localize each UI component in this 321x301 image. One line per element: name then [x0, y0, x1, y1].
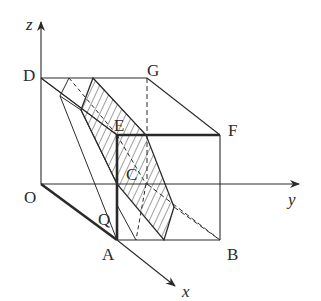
point-A-label: A: [102, 245, 115, 264]
point-O-label: O: [24, 188, 36, 207]
point-Q-label: Q: [98, 210, 110, 229]
x-axis: [117, 240, 175, 286]
geometry-figure: z y x D G F E C O Q A B: [0, 0, 321, 301]
point-F-label: F: [228, 121, 237, 140]
y-axis-label: y: [286, 190, 296, 209]
axes: [41, 22, 299, 286]
point-E-label: E: [114, 116, 124, 135]
point-C-label: C: [126, 165, 137, 184]
point-B-label: B: [227, 245, 238, 264]
shaded-cross-section: [81, 78, 174, 240]
point-G-label: G: [147, 61, 159, 80]
point-D-label: D: [23, 66, 35, 85]
z-axis-label: z: [25, 15, 33, 34]
x-axis-label: x: [181, 282, 190, 301]
diagram-canvas: z y x D G F E C O Q A B: [0, 0, 321, 301]
